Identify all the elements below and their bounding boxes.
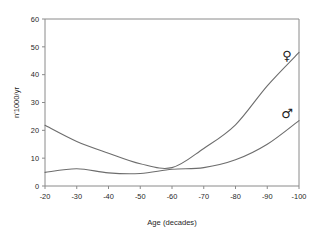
- x-tick-label: -90: [262, 192, 273, 201]
- venus-female-symbol: ♀: [282, 48, 292, 63]
- x-tick-label: -20: [40, 192, 51, 201]
- y-tick-label: 0: [35, 182, 39, 191]
- series-line-male: [45, 121, 299, 174]
- y-tick-label: 20: [31, 126, 39, 135]
- chart-axes: [45, 19, 299, 186]
- x-tick-label: -80: [230, 192, 241, 201]
- x-tick-label: -40: [103, 192, 114, 201]
- x-tick-label: -60: [167, 192, 178, 201]
- y-tick-label: 50: [31, 43, 39, 52]
- x-axis-title: Age (decades): [147, 218, 197, 227]
- series-endpoint-symbols: ♀♂: [281, 48, 293, 121]
- x-tick-label: -100: [292, 192, 307, 201]
- series-line-female: [45, 52, 299, 168]
- data-series-lines: [45, 52, 299, 173]
- y-tick-label: 30: [31, 98, 39, 107]
- y-axis-title: n'1000/yr: [12, 87, 21, 118]
- line-chart-plot: 0102030405060 -20-30-40-50-60-70-80-90-1…: [0, 0, 310, 234]
- x-tick-label: -30: [71, 192, 82, 201]
- x-axis-tick-labels: -20-30-40-50-60-70-80-90-100: [40, 192, 307, 201]
- mars-male-symbol: ♂: [281, 106, 293, 121]
- y-tick-label: 40: [31, 70, 39, 79]
- chart-container: 0102030405060 -20-30-40-50-60-70-80-90-1…: [0, 0, 310, 234]
- y-tick-label: 60: [31, 15, 39, 24]
- y-axis-tick-labels: 0102030405060: [31, 15, 39, 191]
- x-tick-label: -70: [198, 192, 209, 201]
- x-tick-label: -50: [135, 192, 146, 201]
- y-tick-label: 10: [31, 154, 39, 163]
